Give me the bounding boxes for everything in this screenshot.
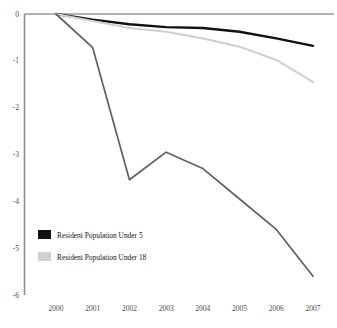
chart-legend: Resident Population Under 5Resident Popu… — [38, 230, 147, 262]
x-axis-tick-label: 2007 — [306, 304, 321, 313]
y-axis-tick-label: -6 — [13, 291, 19, 300]
chart-container: 0-1-2-3-4-5-6 20002001200220032004200520… — [0, 0, 337, 328]
y-axis-tick-label: -5 — [13, 244, 19, 253]
y-axis-tick-label: 0 — [15, 10, 19, 19]
data-series-line — [56, 14, 313, 82]
x-axis-tick-labels: 20002001200220032004200520062007 — [49, 304, 321, 313]
x-axis-tick-label: 2004 — [195, 304, 210, 313]
y-axis-tick-label: -4 — [13, 197, 19, 206]
x-axis-tick-label: 2006 — [269, 304, 284, 313]
x-axis-tick-label: 2000 — [49, 304, 64, 313]
line-chart-plot: 0-1-2-3-4-5-6 20002001200220032004200520… — [0, 0, 337, 328]
legend-color-swatch — [38, 230, 51, 239]
legend-item-label: Resident Population Under 5 — [57, 231, 143, 240]
x-axis-tick-label: 2002 — [122, 304, 137, 313]
y-axis-tick-label: -1 — [13, 56, 19, 65]
legend-color-swatch — [38, 252, 51, 261]
y-axis-tick-label: -2 — [13, 103, 19, 112]
legend-item-label: Resident Population Under 18 — [57, 253, 147, 262]
x-axis-tick-label: 2001 — [85, 304, 100, 313]
y-axis-tick-labels: 0-1-2-3-4-5-6 — [13, 10, 20, 300]
y-axis-tick-label: -3 — [13, 150, 19, 159]
data-series-line — [56, 14, 313, 46]
x-axis-tick-label: 2005 — [232, 304, 247, 313]
x-axis-tick-label: 2003 — [159, 304, 174, 313]
